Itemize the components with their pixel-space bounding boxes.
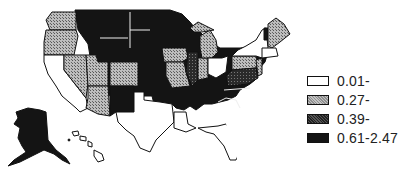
legend-label: 0.01- [337, 73, 370, 89]
legend-item-class-4: 0.61-2.47 [307, 129, 407, 147]
state-nh-me [268, 18, 290, 48]
legend-label: 0.27- [337, 92, 370, 108]
legend-label: 0.61-2.47 [337, 130, 398, 146]
legend-swatch-dark-gray [307, 114, 329, 124]
legend-item-class-2: 0.27- [307, 91, 407, 109]
state-la [174, 112, 196, 132]
state-va-md [226, 68, 258, 86]
state-ma-ct [262, 48, 278, 58]
state-az [86, 86, 110, 116]
state-vt [264, 28, 268, 40]
legend-swatch-white [307, 76, 329, 86]
legend-item-class-3: 0.39- [307, 110, 407, 128]
state-or [44, 30, 78, 55]
legend-item-class-1: 0.01- [307, 72, 407, 90]
state-mi-upper [190, 22, 214, 32]
state-ia [162, 48, 188, 62]
state-in [198, 58, 208, 80]
state-wa [46, 12, 76, 30]
state-ak [8, 108, 70, 166]
state-co [110, 62, 138, 86]
map-legend: 0.01- 0.27- 0.39- 0.61-2.47 [307, 72, 407, 148]
legend-swatch-light-gray [307, 95, 329, 105]
legend-swatch-black [307, 133, 329, 143]
state-hi [68, 131, 104, 162]
state-mi [200, 30, 218, 58]
map-states [44, 10, 290, 169]
legend-label: 0.39- [337, 111, 370, 127]
